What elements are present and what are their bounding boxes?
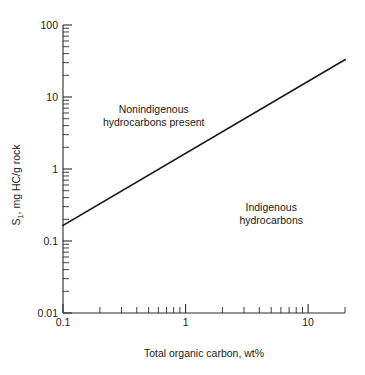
x-tick-label: 10 — [302, 316, 314, 328]
y-axis-title-rest: , mg HC/g rock — [10, 144, 22, 215]
x-tick-label: 1 — [183, 316, 189, 328]
x-tick-label: 0.1 — [56, 316, 71, 328]
x-axis-title: Total organic carbon, wt% — [144, 347, 264, 359]
y-tick-label: 0.1 — [43, 235, 58, 247]
y-axis-title-base: S — [10, 219, 22, 226]
upper-region-label: hydrocarbons present — [103, 116, 205, 128]
upper-region-label: Nonindigenous — [119, 103, 189, 115]
y-tick-label: 10 — [46, 91, 58, 103]
lower-region-label: Indigenous — [246, 201, 297, 213]
log-log-plot: 0.010.1110100 0.1110 Nonindigenoushydroc… — [0, 0, 365, 375]
chart-figure: 0.010.1110100 0.1110 Nonindigenoushydroc… — [0, 0, 365, 375]
y-tick-label: 1 — [52, 163, 58, 175]
lower-region-label: hydrocarbons — [239, 214, 303, 226]
y-tick-label: 100 — [40, 19, 58, 31]
